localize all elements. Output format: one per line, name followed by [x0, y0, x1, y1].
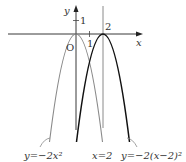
line-equation: x=2: [92, 150, 112, 161]
origin-label: O: [66, 42, 74, 53]
gray-parabola-equation: y=−2x²: [23, 150, 62, 161]
x-axis-arrow-icon: [136, 32, 143, 37]
y-axis-arrow-icon: [74, 5, 79, 12]
x-tick-label-2: 2: [105, 21, 111, 32]
x-tick-label-1: 1: [87, 38, 93, 49]
graph-diagram: y 1 O 1 2 x y=−2x² x=2 y=−2(x−2)²: [0, 0, 186, 162]
x-axis-label: x: [136, 37, 142, 48]
black-parabola-equation: y=−2(x−2)²: [120, 150, 182, 161]
y-axis-label: y: [63, 5, 70, 16]
gray-leader: [40, 138, 50, 147]
y-tick-label-1: 1: [80, 15, 86, 26]
